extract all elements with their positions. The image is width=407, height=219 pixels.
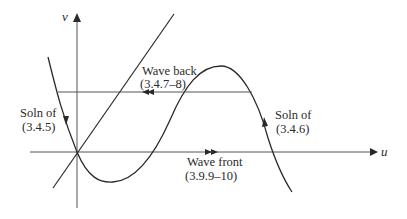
u-axis-arrow-icon: [370, 148, 378, 156]
v-axis-arrow-icon: [73, 13, 81, 22]
soln-right-equation: (3.4.6): [276, 122, 309, 136]
v-axis: [73, 13, 81, 208]
soln-left-label: Soln of: [20, 106, 57, 120]
wave-back-label: Wave back: [142, 64, 198, 78]
linear-nullcline: [53, 14, 174, 188]
soln-right-label: Soln of: [275, 108, 312, 122]
phase-plane-diagram: u v Wave back (3.4.7–8) Wave front (3.9.…: [0, 0, 407, 219]
down-arrow-icon: [63, 116, 69, 125]
soln-left-equation: (3.4.5): [22, 120, 55, 134]
wave-front-equation: (3.9.9–10): [185, 169, 237, 183]
wave-back-equation: (3.4.7–8): [140, 77, 186, 91]
u-axis-label: u: [381, 144, 388, 159]
v-axis-label: v: [62, 9, 68, 24]
wave-front-label: Wave front: [187, 155, 243, 169]
